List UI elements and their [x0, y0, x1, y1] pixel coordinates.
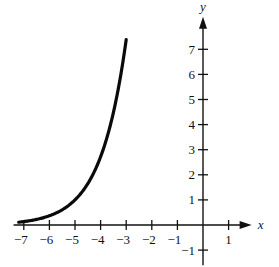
y-tick-label: −1 — [181, 243, 195, 258]
function-graph: −7−6−5−4−3−2−11−11234567 x y — [0, 0, 279, 267]
x-tick-label: −2 — [142, 232, 156, 247]
y-tick-label: 6 — [189, 67, 196, 82]
y-tick-label: 3 — [189, 142, 196, 157]
exponential-curve — [19, 40, 127, 223]
y-tick-label: 2 — [189, 167, 196, 182]
x-tick-label: −3 — [116, 232, 130, 247]
y-tick-label: 7 — [189, 42, 196, 57]
x-tick-label: 1 — [225, 232, 232, 247]
y-axis-arrow-icon — [199, 17, 207, 29]
y-tick-label: 1 — [189, 192, 196, 207]
x-axis-arrow-icon — [240, 221, 252, 229]
x-tick-label: −6 — [39, 232, 53, 247]
x-tick-label: −1 — [167, 232, 181, 247]
x-tick-label: −5 — [65, 232, 79, 247]
x-axis-label: x — [257, 217, 264, 232]
x-tick-label: −4 — [91, 232, 105, 247]
y-tick-label: 5 — [189, 92, 196, 107]
y-axis-label: y — [198, 0, 206, 14]
y-tick-label: 4 — [189, 117, 196, 132]
x-tick-label: −7 — [14, 232, 28, 247]
tick-marks — [24, 49, 229, 250]
